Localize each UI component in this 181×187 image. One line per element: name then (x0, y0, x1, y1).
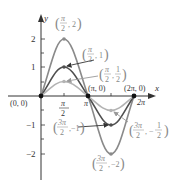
svg-text:,: , (112, 71, 114, 80)
point-max-half (62, 80, 66, 84)
x-tick-2pi: 2π (137, 98, 146, 107)
x-tick-pi: π (84, 99, 89, 108)
svg-text:,: , (145, 127, 147, 136)
svg-text:3π: 3π (133, 121, 143, 130)
svg-text:3π: 3π (57, 118, 67, 127)
svg-text:2: 2 (99, 164, 103, 173)
svg-text:2: 2 (116, 75, 120, 84)
label-origin: (0, 0) (10, 99, 28, 108)
point-pi (86, 94, 91, 99)
svg-text:−: − (149, 127, 154, 136)
svg-text:2: 2 (60, 128, 64, 137)
svg-text:): ) (122, 67, 127, 83)
annotation-max-2: ( π 2 , 2 ) (55, 14, 82, 33)
point-max-2 (62, 37, 66, 41)
svg-text:3π: 3π (96, 154, 106, 163)
annotation-min-half: ( 3π 2 , − 1 2 ) (129, 121, 169, 140)
y-tick-1: 1 (31, 62, 36, 72)
annotation-max-half: ( π 2 , 1 2 ) (99, 65, 127, 84)
svg-text:2: 2 (88, 55, 92, 64)
annotation-min-1: ( 3π 2 , −1 ) (53, 118, 85, 137)
svg-text:): ) (120, 156, 125, 172)
point-min-2 (109, 152, 113, 156)
svg-text:−1: −1 (71, 124, 80, 133)
svg-text:,: , (95, 51, 97, 60)
point-2pi (132, 94, 137, 99)
y-tick-m1: −1 (26, 120, 36, 130)
x-axis-arrow-icon (148, 93, 156, 99)
sine-amplitude-chart: y x 2 1 −1 −2 π 2 π 2π (0, 0) (π, 0) (2π… (0, 0, 181, 187)
svg-text:π: π (88, 45, 93, 54)
svg-text:): ) (80, 120, 85, 136)
svg-text:): ) (77, 16, 82, 32)
point-min-half (109, 109, 113, 113)
y-tick-2: 2 (31, 34, 36, 44)
svg-text:2: 2 (72, 20, 76, 29)
x-tick-pi-half-num: π (61, 99, 66, 108)
svg-text:(: ( (82, 47, 87, 63)
point-min-1 (109, 123, 113, 127)
svg-text:2: 2 (157, 131, 161, 140)
annotation-max-1: ( π 2 , 1 ) (82, 45, 109, 64)
svg-text:2: 2 (136, 131, 140, 140)
y-tick-m2: −2 (26, 149, 36, 159)
annotation-min-2: ( 3π 2 , −2 ) (92, 154, 125, 173)
point-max-1 (62, 65, 66, 69)
x-tick-pi-half-den: 2 (61, 109, 65, 118)
svg-text:2: 2 (105, 75, 109, 84)
arrow-to-min-half (114, 112, 128, 122)
svg-text:): ) (104, 47, 109, 63)
svg-text:2: 2 (61, 24, 65, 33)
svg-text:−2: −2 (111, 160, 120, 169)
svg-text:,: , (68, 20, 70, 29)
svg-text:π: π (105, 65, 110, 74)
x-axis-label: x (154, 83, 159, 93)
svg-text:1: 1 (99, 51, 103, 60)
label-2pi-point: (2π, 0) (124, 84, 146, 93)
svg-text:(: ( (55, 16, 60, 32)
svg-text:1: 1 (157, 121, 161, 130)
svg-text:,: , (108, 160, 110, 169)
svg-text:): ) (164, 123, 169, 139)
svg-text:(: ( (99, 67, 104, 83)
svg-text:1: 1 (116, 65, 120, 74)
svg-text:π: π (61, 14, 66, 23)
y-axis-label: y (43, 13, 48, 23)
label-pi-point: (π, 0) (88, 84, 106, 93)
point-origin (39, 94, 44, 99)
